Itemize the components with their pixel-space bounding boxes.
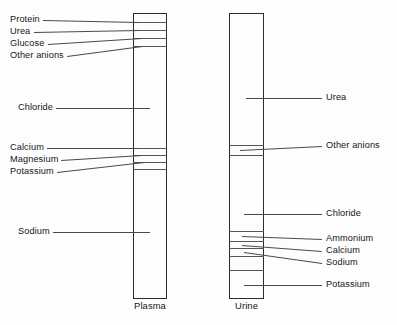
caption-plasma: Plasma [121, 301, 179, 310]
leader-right-chloride [244, 214, 322, 215]
band-divider-urine-2 [229, 231, 264, 232]
band-divider-urine-5 [229, 256, 264, 257]
label-right-sodium: Sodium [326, 258, 358, 267]
band-divider-urine-0 [229, 145, 264, 146]
leader-left-protein [43, 20, 139, 23]
label-right-ammonium: Ammonium [326, 234, 373, 243]
leader-left-chloride [56, 108, 150, 109]
band-divider-urine-4 [229, 248, 264, 249]
leader-left-potassium [57, 162, 144, 173]
band-divider-plasma-7 [133, 169, 167, 170]
leader-left-other-anions [67, 46, 143, 57]
leader-left-magnesium [61, 155, 142, 161]
plasma-urine-composition-figure: ProteinUreaGlucoseOther anionsChlorideCa… [0, 0, 397, 325]
leader-left-urea [34, 30, 139, 33]
label-right-chloride: Chloride [326, 209, 361, 218]
label-right-calcium: Calcium [326, 246, 360, 255]
caption-urine: Urine [217, 301, 276, 310]
label-left-potassium: Potassium [10, 167, 54, 176]
leader-left-sodium [53, 232, 150, 233]
label-left-protein: Protein [10, 15, 40, 24]
band-divider-urine-6 [229, 270, 264, 271]
label-right-potassium: Potassium [326, 280, 370, 289]
band-divider-urine-1 [229, 155, 264, 156]
band-divider-urine-3 [229, 241, 264, 242]
label-right-other-anions: Other anions [326, 141, 380, 150]
leader-right-urea [246, 98, 322, 99]
label-left-glucose: Glucose [10, 39, 44, 48]
label-right-urea: Urea [326, 93, 346, 102]
leader-right-potassium [244, 285, 322, 286]
leader-left-glucose [48, 38, 142, 45]
label-left-magnesium: Magnesium [10, 155, 58, 164]
label-left-calcium: Calcium [10, 143, 44, 152]
leader-left-calcium [47, 148, 140, 149]
label-left-other-anions: Other anions [10, 51, 64, 60]
label-left-chloride: Chloride [18, 103, 53, 112]
label-left-urea: Urea [10, 27, 30, 36]
label-left-sodium: Sodium [18, 227, 50, 236]
